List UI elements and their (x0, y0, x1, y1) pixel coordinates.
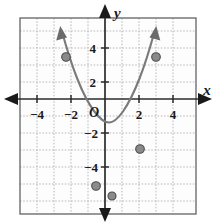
data-point (92, 182, 101, 191)
x-tick-label-neg4: −4 (30, 107, 44, 122)
x-tick-label-4: 4 (170, 107, 177, 122)
y-tick-label-4: 4 (90, 41, 97, 56)
coordinate-plane-figure: −4 −2 2 4 4 2 −2 −4 O y x (0, 0, 216, 224)
data-point (108, 192, 116, 200)
x-tick-label-neg2: −2 (64, 107, 78, 122)
data-point (152, 53, 161, 62)
y-axis-bottom-arrow-icon (99, 208, 111, 222)
x-axis-left-arrow-icon (4, 93, 18, 105)
y-axis-label: y (112, 5, 121, 21)
x-axis-label: x (202, 82, 211, 98)
origin-label: O (89, 105, 99, 120)
data-point (136, 145, 145, 154)
graph-canvas: −4 −2 2 4 4 2 −2 −4 O y x (0, 0, 216, 224)
data-point (62, 53, 71, 62)
x-tick-label-2: 2 (136, 107, 143, 122)
y-tick-label-neg2: −2 (84, 126, 98, 141)
y-axis-top-arrow-icon (99, 4, 111, 18)
y-tick-label-2: 2 (90, 75, 97, 90)
y-tick-label-neg4: −4 (84, 160, 98, 175)
